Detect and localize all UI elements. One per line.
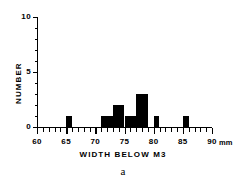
y-tick-minor bbox=[35, 61, 38, 62]
x-tick-major bbox=[154, 128, 155, 134]
x-tick-minor bbox=[189, 128, 190, 132]
histogram-bar bbox=[142, 94, 148, 127]
y-tick-label: 0 bbox=[11, 122, 31, 131]
x-tick-minor bbox=[78, 128, 79, 132]
x-tick-label: 70 bbox=[83, 137, 107, 146]
x-tick-major bbox=[183, 128, 184, 134]
x-tick-minor bbox=[171, 128, 172, 132]
x-axis-unit-label: mm bbox=[219, 138, 232, 147]
x-tick-minor bbox=[49, 128, 50, 132]
y-tick-minor bbox=[35, 28, 38, 29]
x-tick-minor bbox=[119, 128, 120, 132]
y-tick-minor bbox=[35, 94, 38, 95]
x-tick-minor bbox=[195, 128, 196, 132]
x-tick-minor bbox=[160, 128, 161, 132]
x-tick-minor bbox=[72, 128, 73, 132]
x-tick-minor bbox=[84, 128, 85, 132]
y-tick-minor bbox=[35, 83, 38, 84]
y-tick-minor bbox=[35, 116, 38, 117]
figure-histogram: 0510 60657075808590 NUMBER WIDTH BELOW M… bbox=[0, 0, 246, 186]
y-tick-major bbox=[33, 17, 38, 18]
figure-caption: a bbox=[0, 165, 246, 177]
x-tick-minor bbox=[177, 128, 178, 132]
x-tick-minor bbox=[90, 128, 91, 132]
x-tick-minor bbox=[165, 128, 166, 132]
x-tick-minor bbox=[206, 128, 207, 132]
y-axis-title: NUMBER bbox=[14, 62, 23, 104]
x-tick-minor bbox=[43, 128, 44, 132]
x-tick-major bbox=[95, 128, 96, 134]
x-tick-minor bbox=[148, 128, 149, 132]
x-tick-minor bbox=[130, 128, 131, 132]
x-tick-major bbox=[37, 128, 38, 134]
x-tick-minor bbox=[101, 128, 102, 132]
histogram-bar bbox=[183, 116, 189, 127]
x-tick-minor bbox=[113, 128, 114, 132]
x-tick-major bbox=[212, 128, 213, 134]
x-tick-minor bbox=[60, 128, 61, 132]
x-tick-label: 75 bbox=[113, 137, 137, 146]
x-tick-label: 85 bbox=[171, 137, 195, 146]
x-axis-title: WIDTH BELOW M3 bbox=[0, 150, 246, 159]
x-tick-label: 60 bbox=[25, 137, 49, 146]
x-tick-minor bbox=[136, 128, 137, 132]
y-tick-major bbox=[33, 72, 38, 73]
x-tick-minor bbox=[107, 128, 108, 132]
x-tick-minor bbox=[55, 128, 56, 132]
x-tick-minor bbox=[142, 128, 143, 132]
y-tick-minor bbox=[35, 105, 38, 106]
x-tick-label: 80 bbox=[142, 137, 166, 146]
x-tick-major bbox=[125, 128, 126, 134]
y-tick-minor bbox=[35, 39, 38, 40]
x-tick-label: 65 bbox=[54, 137, 78, 146]
plot-area bbox=[0, 0, 246, 127]
histogram-bar bbox=[154, 116, 160, 127]
x-tick-minor bbox=[200, 128, 201, 132]
x-tick-major bbox=[66, 128, 67, 134]
y-tick-label: 10 bbox=[11, 12, 31, 21]
histogram-bar bbox=[66, 116, 72, 127]
y-tick-minor bbox=[35, 50, 38, 51]
